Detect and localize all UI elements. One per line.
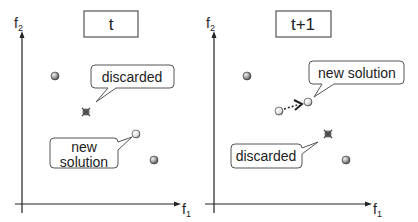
discarded-point-icon [324,130,332,138]
solution-point [51,72,59,80]
svg-text:new solution: new solution [318,65,396,81]
solution-point [150,156,158,164]
x-arrow-icon [174,202,181,207]
discarded-point-icon [82,108,90,116]
x-arrow-icon [365,202,372,207]
y-axis-label: f2 [14,15,23,33]
diagram-canvas: f2 f1 t discarded new solution [0,0,418,222]
previous-position-point [275,107,283,115]
new-solution-point [304,98,312,106]
callout-discarded: discarded [91,65,174,102]
move-arrow-icon [284,100,302,110]
callout-new-solution: new solution [309,61,404,97]
x-axis-label: f1 [373,201,382,219]
solution-point [243,72,251,80]
panel-t-plus-1: f2 f1 t+1 new solution discarded [205,11,404,219]
svg-text:solution: solution [60,154,108,170]
new-solution-point [132,130,140,138]
svg-text:discarded: discarded [102,69,163,85]
svg-text:discarded: discarded [236,148,297,164]
callout-discarded: discarded [231,142,318,168]
callout-new-solution: new solution [50,137,132,170]
axes [205,31,372,213]
solution-point [342,156,350,164]
panel-title: t+1 [291,15,315,34]
axes [15,31,181,213]
x-axis-label: f1 [182,201,191,219]
panel-t: f2 f1 t discarded new solution [14,11,191,219]
panel-title: t [109,15,114,34]
y-axis-label: f2 [206,15,215,33]
svg-text:new: new [71,139,98,155]
